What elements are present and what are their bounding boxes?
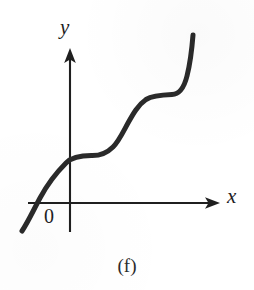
y-axis-label: y <box>60 17 69 38</box>
origin-label: 0 <box>44 206 54 226</box>
x-axis-label: x <box>227 186 236 207</box>
curve-f <box>22 35 193 231</box>
figure-graphic <box>0 0 254 290</box>
figure-caption: (f) <box>0 256 254 275</box>
figure-container: y x 0 (f) <box>0 0 254 290</box>
